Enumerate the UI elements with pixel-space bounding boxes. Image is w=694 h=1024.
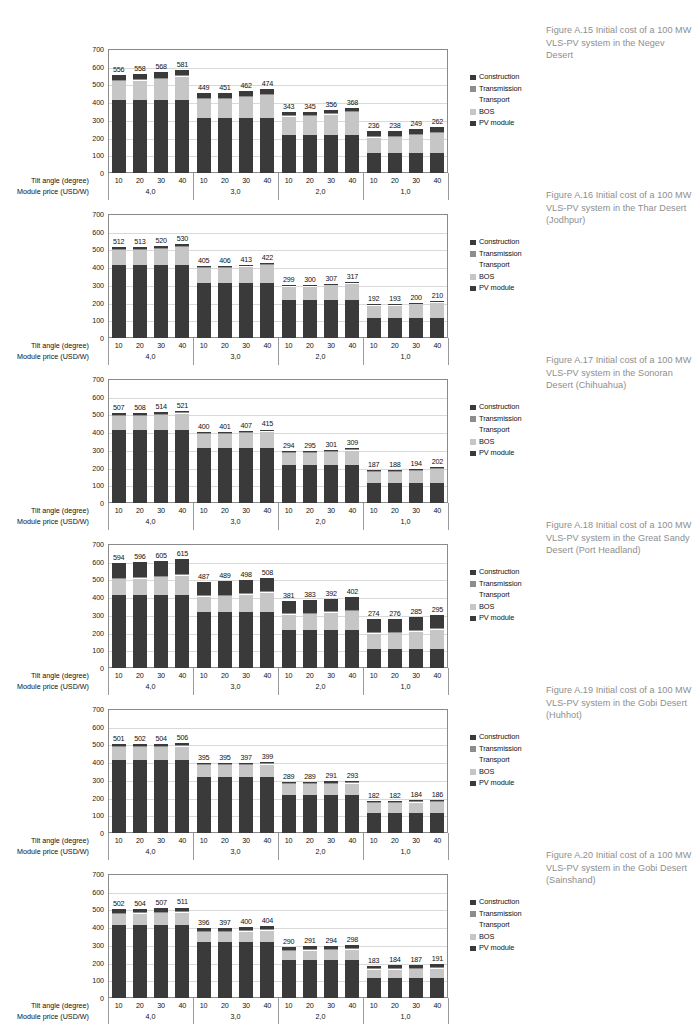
bar-segment-transport — [154, 78, 168, 79]
y-tick-label: 700 — [92, 210, 104, 219]
bar-segment-bos — [345, 283, 359, 300]
bar-segment-transmission — [239, 593, 253, 594]
bar-segment-pv-module — [303, 795, 317, 833]
bar-value-label: 508 — [255, 568, 279, 577]
figure-caption: Figure A.19 Initial cost of a 100 MW VLS… — [546, 684, 692, 722]
legend-item-label: Transmission — [479, 249, 521, 258]
legend-item: PV module — [470, 613, 540, 625]
legend-item-label: BOS — [479, 602, 494, 611]
legend-swatch-icon — [470, 274, 476, 280]
legend-item: BOS — [470, 272, 540, 284]
legend-item: Construction — [470, 237, 540, 249]
bar-segment-bos — [345, 112, 359, 135]
legend-item-label: PV module — [479, 943, 514, 952]
bar-segment-bos — [260, 764, 274, 777]
bar-segment-bos — [282, 615, 296, 630]
bar-segment-bos — [303, 614, 317, 630]
bar-segment-construction — [239, 431, 253, 432]
tilt-angle-tick: 10 — [278, 1001, 300, 1010]
y-tick-label: 500 — [92, 245, 104, 254]
y-axis: 7006005004003002001000 — [78, 871, 104, 998]
legend-item-label: Construction — [479, 237, 519, 246]
legend-item-label: BOS — [479, 437, 494, 446]
bar-segment-bos — [303, 286, 317, 300]
y-axis: 7006005004003002001000 — [78, 46, 104, 173]
bar-segment-construction — [197, 763, 211, 764]
bar-segment-transport — [303, 950, 317, 951]
bar-segment-transport — [112, 415, 126, 416]
bar-segment-construction — [260, 89, 274, 94]
bar-segment-pv-module — [282, 630, 296, 668]
tilt-angle-tick: 40 — [426, 506, 448, 515]
bar-segment-pv-module — [409, 318, 423, 338]
legend-swatch-icon — [470, 735, 476, 741]
bar-segment-transport — [430, 968, 444, 969]
bar-value-label: 530 — [170, 234, 194, 243]
bar-value-label: 317 — [340, 272, 364, 281]
bar-segment-construction — [345, 448, 359, 449]
bar-segment-construction — [112, 563, 126, 578]
bar-segment-construction — [409, 469, 423, 470]
y-tick-label: 400 — [92, 98, 104, 107]
chart-fig-a17: 7006005004003002001000507508514521400401… — [0, 352, 540, 517]
y-tick-label: 500 — [92, 740, 104, 749]
bar-value-label: 615 — [170, 549, 194, 558]
bar-segment-transmission — [430, 967, 444, 968]
tilt-angle-tick: 20 — [384, 1001, 406, 1010]
bar-segment-bos — [303, 453, 317, 466]
bar-segment-transmission — [175, 911, 189, 912]
y-tick-label: 500 — [92, 905, 104, 914]
bar-segment-bos — [430, 133, 444, 153]
bar-segment-transport — [324, 783, 338, 784]
y-tick-label: 700 — [92, 375, 104, 384]
tilt-angle-tick: 10 — [363, 671, 385, 680]
bar-segment-pv-module — [303, 960, 317, 998]
bar-segment-pv-module — [133, 760, 147, 833]
bar-value-label: 474 — [255, 79, 279, 88]
tilt-angle-tick: 10 — [108, 671, 130, 680]
y-axis: 7006005004003002001000 — [78, 706, 104, 833]
group-separator-edge — [108, 998, 109, 1024]
tilt-angle-tick: 10 — [108, 1001, 130, 1010]
bar-segment-construction — [154, 412, 168, 414]
bar-segment-transport — [409, 968, 423, 969]
legend-item: Construction — [470, 732, 540, 744]
stacked-bar — [303, 451, 317, 503]
bar-segment-transport — [409, 802, 423, 803]
stacked-bar — [154, 72, 168, 173]
bar-segment-pv-module — [430, 649, 444, 668]
bar-segment-construction — [260, 578, 274, 591]
bar-segment-pv-module — [154, 100, 168, 173]
y-tick-label: 300 — [92, 115, 104, 124]
bar-segment-construction — [282, 451, 296, 452]
bar-segment-construction — [112, 744, 126, 746]
bar-segment-transport — [282, 452, 296, 453]
bar-segment-pv-module — [133, 595, 147, 669]
legend-swatch-icon — [470, 416, 476, 422]
bar-segment-transmission — [282, 613, 296, 614]
bar-segment-pv-module — [112, 925, 126, 998]
bar-segment-transport — [197, 98, 211, 99]
bar-segment-construction — [282, 112, 296, 115]
stacked-bar — [388, 965, 402, 998]
bar-segment-transport — [409, 303, 423, 304]
bar-segment-transport — [133, 415, 147, 416]
bar-value-label: 186 — [425, 790, 449, 799]
tilt-angle-tick: 20 — [299, 506, 321, 515]
bar-segment-pv-module — [154, 265, 168, 338]
bar-segment-transport — [133, 80, 147, 81]
bar-segment-pv-module — [239, 777, 253, 833]
bar-segment-transport — [303, 452, 317, 453]
bar-segment-transmission — [282, 950, 296, 951]
bar-segment-construction — [409, 800, 423, 801]
bar-segment-transport — [430, 132, 444, 133]
tilt-angle-tick: 20 — [129, 176, 151, 185]
bar-segment-construction — [197, 266, 211, 267]
bar-segment-transport — [260, 930, 274, 931]
bar-segment-bos — [175, 912, 189, 924]
bar-segment-bos — [133, 81, 147, 100]
bar-segment-pv-module — [260, 283, 274, 338]
tilt-angle-tick: 10 — [363, 506, 385, 515]
bar-segment-transmission — [175, 574, 189, 575]
y-tick-label: 600 — [92, 227, 104, 236]
